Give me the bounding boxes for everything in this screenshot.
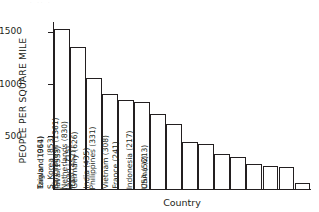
bar-label: USA (56) xyxy=(141,156,306,189)
x-axis-title: Country xyxy=(53,197,311,208)
bar-chart: · ·· · PEOPLE PER SQUARE MILE 5001000150… xyxy=(0,0,319,212)
plot-area: Java (1533)Bangladesh (1361)Taiwan (1064… xyxy=(54,22,311,189)
y-tick-label: 1500 xyxy=(0,27,22,36)
y-tick-label: 1000 xyxy=(0,80,22,89)
y-tick-label: 500 xyxy=(5,132,22,141)
